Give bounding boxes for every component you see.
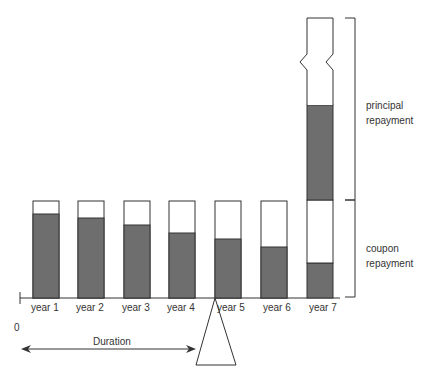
principal-repayment-label: principal repayment (366, 98, 413, 128)
coupon-bracket (345, 200, 355, 297)
year-label: year 4 (167, 302, 195, 313)
year-bar-present-value (124, 225, 150, 298)
year-label: year 7 (309, 302, 337, 313)
origin-label: 0 (14, 322, 20, 333)
year-bars (33, 201, 287, 298)
duration-diagram (0, 0, 426, 378)
axis-break-icon (300, 18, 333, 105)
year-7-coupon-cash (307, 200, 333, 263)
year-7-bar (300, 18, 333, 298)
coupon-repayment-label: coupon repayment (366, 241, 413, 271)
year-7-coupon-pv (307, 263, 333, 298)
year-bar-present-value (169, 233, 195, 298)
year-7-principal-pv (307, 105, 333, 200)
year-bar-present-value (78, 218, 104, 298)
year-label: year 1 (31, 302, 59, 313)
coupon-label-line2: repayment (366, 256, 413, 271)
duration-label: Duration (93, 336, 131, 347)
year-bar-present-value (261, 247, 287, 298)
year-label: year 3 (122, 302, 150, 313)
year-label: year 5 (217, 302, 245, 313)
year-label: year 6 (263, 302, 291, 313)
principal-label-line2: repayment (366, 113, 413, 128)
year-bar-present-value (215, 239, 241, 298)
year-bar-present-value (33, 214, 59, 298)
coupon-label-line1: coupon (366, 241, 413, 256)
principal-bracket (345, 18, 355, 200)
year-label: year 2 (76, 302, 104, 313)
principal-label-line1: principal (366, 98, 413, 113)
